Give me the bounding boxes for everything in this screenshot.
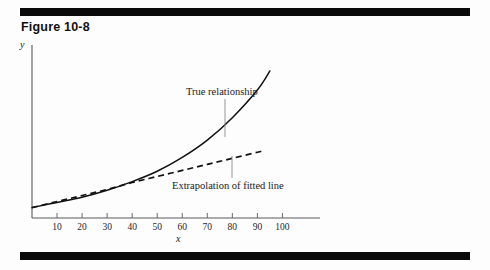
chart-plot-area [0,0,490,270]
y-axis-label: y [20,39,24,50]
x-tick-label: 50 [152,222,162,232]
true-relationship-label: True relationship [186,86,258,97]
figure-page: Figure 10-8 y x 102030405060708090100 Tr… [0,0,490,270]
x-tick-label: 30 [102,222,112,232]
x-tick-label: 70 [203,222,213,232]
x-tick-label: 10 [52,222,62,232]
x-tick-label: 100 [275,222,289,232]
x-tick-label: 40 [127,222,137,232]
x-tick-label: 90 [253,222,263,232]
extrapolation-label: Extrapolation of fitted line [172,180,284,191]
x-axis-ticks [57,213,282,218]
x-tick-label: 80 [228,222,238,232]
x-tick-label: 60 [178,222,188,232]
x-tick-label: 20 [77,222,87,232]
x-axis-label: x [176,233,180,244]
chart-svg [0,0,490,270]
